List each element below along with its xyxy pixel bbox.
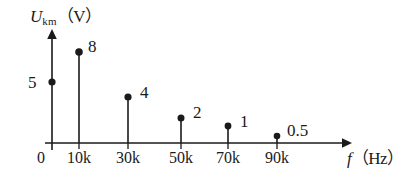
y-axis-unit: （V）	[57, 7, 102, 26]
data-point-50k	[178, 115, 185, 122]
data-point-10k	[75, 48, 83, 56]
y-axis-subscript: km	[42, 15, 56, 27]
tick-label-50k: 50k	[159, 150, 203, 166]
y-axis-arrowhead	[47, 29, 57, 39]
value-label-50k: 2	[193, 104, 202, 121]
value-label-30k: 4	[140, 84, 149, 101]
y-axis-variable: U	[30, 7, 42, 26]
data-point-70k	[225, 123, 232, 130]
tick-label-0: 0	[21, 150, 61, 166]
y-axis-title: Ukm（V）	[30, 8, 102, 27]
value-label-70k: 1	[240, 113, 249, 130]
tick-label-90k: 90k	[255, 150, 299, 166]
data-point-dc	[48, 78, 55, 85]
amplitude-spectrum-figure: Ukm（V） f（Hz） 5 8 4 2 1 0.5 0 10k 30k 50k…	[0, 0, 411, 177]
x-axis-unit: （Hz）	[352, 149, 404, 168]
data-point-30k	[124, 93, 131, 100]
data-point-90k	[274, 133, 281, 140]
tick-label-30k: 30k	[106, 150, 150, 166]
tick-label-10k: 10k	[57, 150, 101, 166]
value-label-0-5: 0.5	[287, 122, 308, 139]
tick-label-70k: 70k	[206, 150, 250, 166]
value-label-dc: 5	[28, 74, 37, 91]
value-label-10k: 8	[88, 38, 97, 55]
x-axis-title: f（Hz）	[347, 150, 404, 167]
x-axis-arrowhead	[342, 138, 352, 148]
